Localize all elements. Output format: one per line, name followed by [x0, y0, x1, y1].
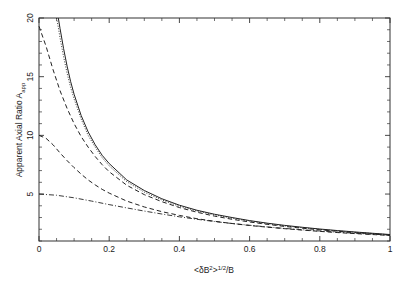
x-tick-label: 0.4 [173, 244, 185, 254]
x-axis-ticks [39, 18, 390, 241]
x-tick-label: 0.6 [244, 244, 256, 254]
y-tick-label: 20 [25, 13, 35, 23]
x-axis-title: <δB2>1/2/B [194, 265, 234, 275]
curve-dotted [57, 18, 390, 235]
y-tick-label: 10 [25, 130, 35, 140]
y-axis-tick-labels: 5101520 [25, 13, 35, 196]
y-axis-ticks [39, 18, 390, 241]
chart-canvas: 00.20.40.60.81 5101520 <δB2>1/2/B Appare… [0, 0, 402, 283]
x-tick-label: 0.2 [103, 244, 115, 254]
data-curves [39, 18, 390, 235]
y-axis-title: Apparent Axial Ratio Aapp [14, 82, 26, 177]
plot-border [39, 18, 390, 241]
curve-dashed-upper [39, 26, 390, 235]
figure-container: 00.20.40.60.81 5101520 <δB2>1/2/B Appare… [0, 0, 402, 283]
svg-text:Apparent Axial Ratio Aapp: Apparent Axial Ratio Aapp [14, 82, 26, 177]
x-tick-label: 0.8 [314, 244, 326, 254]
x-axis-tick-labels: 00.20.40.60.81 [37, 244, 393, 254]
curve-solid [58, 18, 390, 235]
x-tick-label: 0 [37, 244, 42, 254]
y-tick-label: 15 [25, 72, 35, 82]
y-tick-label: 5 [25, 191, 35, 196]
x-tick-label: 1 [388, 244, 393, 254]
curve-dashed-lower [39, 135, 390, 235]
plot-frame [39, 18, 390, 241]
